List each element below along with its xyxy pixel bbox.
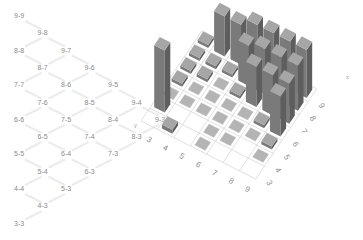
tree-node-label: 6-3 <box>85 168 95 175</box>
tree-edge <box>49 108 66 116</box>
tree-node-label: 4-4 <box>14 185 24 192</box>
y-tick-label: 8 <box>308 114 318 123</box>
x-tick-label: 8 <box>227 176 236 186</box>
bar-side-face <box>281 88 287 136</box>
bar-front-face <box>246 62 256 107</box>
y-tick-label: 9 <box>317 101 327 110</box>
bar-front-face <box>270 91 280 136</box>
tree-edge <box>49 90 66 98</box>
x-axis-label: x <box>346 74 349 80</box>
tree-edge <box>25 108 42 116</box>
tree-edge <box>72 73 89 81</box>
bar-side-face <box>289 75 295 123</box>
tree-edge <box>25 38 42 46</box>
tree-edge <box>72 177 89 185</box>
tree-node-label: 5-3 <box>61 185 71 192</box>
bar-side-face <box>165 42 171 112</box>
tree-edge <box>25 142 42 150</box>
tree-node-label: 8-4 <box>108 116 118 123</box>
tree-edge <box>119 142 136 150</box>
tree-node-label: 3-3 <box>14 220 24 227</box>
tree-edge <box>72 90 89 98</box>
tree-edge <box>96 108 113 116</box>
y-tick-label: 6 <box>290 140 300 149</box>
tree-node-label: 8-3 <box>132 133 142 140</box>
grid-line <box>174 47 235 137</box>
tree-edge <box>72 125 89 133</box>
bar-front-face <box>154 45 164 112</box>
tree-node-label: 5-4 <box>38 168 48 175</box>
tree-edge <box>49 56 66 64</box>
tree-edge <box>25 73 42 81</box>
flat-marker <box>179 94 195 108</box>
tree-edge <box>49 159 66 167</box>
tree-node-label: 9-5 <box>108 81 118 88</box>
tree-edge <box>25 125 42 133</box>
tree-node-label: 8-7 <box>38 64 48 71</box>
tree-edge <box>119 90 136 98</box>
x-tick-label: 9 <box>243 184 252 194</box>
flat-marker <box>212 111 228 125</box>
x-tick-label: 3 <box>145 135 154 145</box>
tree-edge <box>49 142 66 150</box>
grid-line <box>141 31 202 121</box>
tree-node-label: 8-8 <box>14 47 24 54</box>
tree-edge <box>72 159 89 167</box>
y-tick-label: 4 <box>273 166 283 175</box>
flat-marker <box>245 128 261 142</box>
flat-marker <box>220 132 236 146</box>
tree-node-label: 7-3 <box>108 150 118 157</box>
flat-marker <box>204 90 220 104</box>
tree-edge <box>49 38 66 46</box>
y-axis-label: y <box>134 122 137 128</box>
3d-bar-chart: 3456789 3456789 x y <box>134 3 349 195</box>
tree-node-label: 9-4 <box>132 99 142 106</box>
bar-side-face <box>298 58 304 111</box>
tree-node-label: 9-9 <box>14 12 24 19</box>
tree-node-label: 7-4 <box>85 133 95 140</box>
tree-node-label: 9-6 <box>85 64 95 71</box>
flat-marker <box>213 77 229 91</box>
y-tick-label: 5 <box>282 153 292 162</box>
tree-edge <box>25 194 42 202</box>
tree-edge <box>72 56 89 64</box>
tree-edge <box>96 142 113 150</box>
flat-marker <box>203 124 219 138</box>
tree-edge <box>49 194 66 202</box>
x-tick-label: 5 <box>178 151 187 161</box>
tree-node-label: 9-3 <box>155 116 165 123</box>
tree-edge <box>49 177 66 185</box>
flat-marker <box>253 149 269 163</box>
x-tick-label: 4 <box>161 143 170 153</box>
flat-marker <box>229 119 245 133</box>
bar-side-face <box>307 42 313 98</box>
tree-edge <box>72 142 89 150</box>
tree-node-label: 7-6 <box>38 99 48 106</box>
y-tick-label: 7 <box>299 127 309 136</box>
tree-edge <box>25 177 42 185</box>
tree-edge <box>96 90 113 98</box>
flat-marker <box>221 98 237 112</box>
tree-node-label: 8-5 <box>85 99 95 106</box>
tree-edge <box>119 108 136 116</box>
flat-marker <box>195 137 211 151</box>
x-tick-label: 6 <box>194 160 203 170</box>
tree-node-label: 9-7 <box>61 47 71 54</box>
tree-edge <box>25 90 42 98</box>
tree-edge <box>25 159 42 167</box>
tree-edge <box>49 125 66 133</box>
tree-edge <box>25 56 42 64</box>
flat-marker <box>188 82 204 96</box>
tree-node-label: 6-6 <box>14 116 24 123</box>
tree-node-label: 6-5 <box>38 133 48 140</box>
tree-edge <box>96 125 113 133</box>
flat-marker <box>237 106 253 120</box>
tree-edge <box>25 21 42 29</box>
tree-node-label: 9-8 <box>38 29 48 36</box>
tree-edge <box>49 73 66 81</box>
tree-edge <box>72 108 89 116</box>
bar-side-face <box>225 8 231 56</box>
tree-edge <box>25 211 42 219</box>
tree-edge <box>96 73 113 81</box>
tree-node-label: 7-5 <box>61 116 71 123</box>
